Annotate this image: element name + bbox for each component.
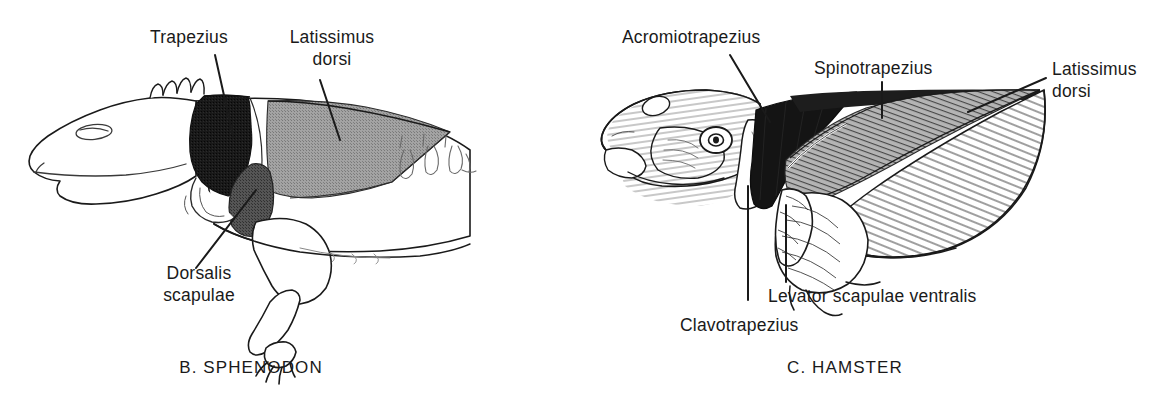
- caption-sphenodon: B. SPHENODON: [146, 358, 356, 378]
- label-line-1: Latissimus: [290, 27, 375, 47]
- label-hamster-acromiotrapezius: Acromiotrapezius: [622, 26, 760, 48]
- label-line-2: dorsi: [1052, 81, 1091, 101]
- label-sphenodon-trapezius: Trapezius: [150, 26, 228, 48]
- label-sphenodon-dorsalis-scapulae: Dorsalis scapulae: [140, 262, 258, 307]
- figure-page: Trapezius Latissimus dorsi Dorsalis scap…: [0, 0, 1171, 411]
- caption-hamster: C. HAMSTER: [740, 358, 950, 378]
- label-hamster-levator-scapulae-ventralis: Levator scapulae ventralis: [768, 285, 977, 307]
- label-line-1: Latissimus: [1052, 59, 1137, 79]
- label-hamster-spinotrapezius: Spinotrapezius: [814, 57, 933, 79]
- label-sphenodon-latissimus-dorsi: Latissimus dorsi: [272, 26, 392, 71]
- hamster-illustration: [0, 0, 1171, 411]
- label-line-2: scapulae: [163, 285, 235, 305]
- hamster-eye: [700, 127, 732, 153]
- label-line-2: dorsi: [313, 49, 352, 69]
- label-line-1: Dorsalis: [167, 263, 232, 283]
- label-hamster-latissimus-dorsi: Latissimus dorsi: [1052, 58, 1164, 103]
- label-hamster-clavotrapezius: Clavotrapezius: [680, 314, 799, 336]
